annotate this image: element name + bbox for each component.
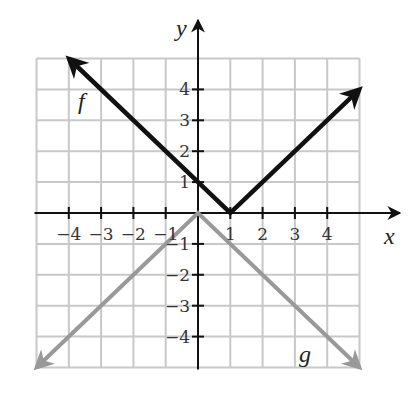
x-tick-label: −2 bbox=[121, 224, 146, 244]
f-label: f bbox=[78, 88, 88, 114]
y-tick-label: 1 bbox=[179, 172, 190, 192]
y-tick-label: −2 bbox=[165, 265, 190, 285]
x-tick-label: −3 bbox=[89, 224, 114, 244]
x-axis-label: x bbox=[383, 223, 395, 249]
y-tick-label: 3 bbox=[179, 110, 190, 130]
y-axis-label: y bbox=[174, 15, 187, 41]
x-tick-label: 1 bbox=[225, 224, 236, 244]
x-tick-label: −4 bbox=[56, 224, 81, 244]
x-tick-label: 2 bbox=[257, 224, 268, 244]
x-tick-label: 3 bbox=[289, 224, 300, 244]
y-tick-label: −1 bbox=[165, 234, 190, 254]
g-label: g bbox=[299, 341, 311, 367]
y-tick-label: 2 bbox=[179, 141, 190, 161]
y-tick-label: −3 bbox=[165, 296, 190, 316]
y-tick-label: 4 bbox=[179, 79, 190, 99]
y-tick-label: −4 bbox=[165, 327, 190, 347]
coordinate-plane: −4−3−2−11234−4−3−2−11234 y x f g bbox=[0, 0, 417, 395]
graph-f bbox=[69, 59, 360, 214]
x-tick-label: 4 bbox=[322, 224, 333, 244]
